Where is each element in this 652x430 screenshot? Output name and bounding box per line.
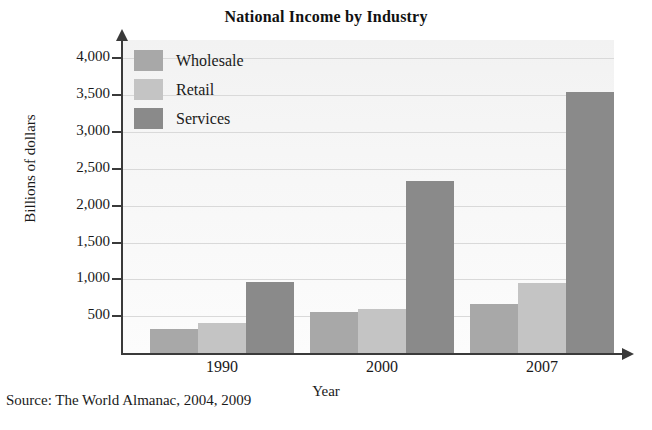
gridline: [122, 206, 614, 207]
legend-swatch-services: [134, 108, 163, 129]
legend-item-wholesale: Wholesale: [134, 46, 324, 75]
y-axis-tick-label: 1,000: [48, 269, 110, 286]
legend-item-services: Services: [134, 104, 324, 133]
y-axis-line: [121, 40, 123, 354]
legend-label: Wholesale: [176, 53, 244, 69]
y-axis-tick-label: 3,000: [48, 122, 110, 139]
chart-figure: National Income by Industry 5001,0001,50…: [0, 0, 652, 430]
y-axis-tick: [112, 242, 122, 244]
legend-label: Services: [176, 111, 230, 127]
y-axis-tick-label: 4,000: [48, 48, 110, 65]
x-axis-category-label: 2000: [322, 358, 442, 376]
bar-services-2000: [406, 181, 454, 353]
bar-services-2007: [566, 92, 614, 353]
y-axis-tick: [112, 57, 122, 59]
y-axis-tick-label: 2,500: [48, 159, 110, 176]
legend: WholesaleRetailServices: [134, 46, 324, 133]
legend-swatch-retail: [134, 79, 163, 100]
bar-retail-2000: [358, 309, 406, 353]
gridline: [122, 169, 614, 170]
bar-retail-2007: [518, 283, 566, 353]
y-axis-tick-label: 500: [48, 306, 110, 323]
legend-label: Retail: [176, 82, 214, 98]
y-axis-tick: [112, 131, 122, 133]
legend-swatch-wholesale: [134, 50, 163, 71]
gridline: [122, 243, 614, 244]
bar-services-1990: [246, 282, 294, 353]
y-axis-tick-label: 2,000: [48, 196, 110, 213]
x-axis-category-label: 1990: [162, 358, 282, 376]
y-axis-tick: [112, 168, 122, 170]
x-axis-category-label: 2007: [482, 358, 602, 376]
bar-wholesale-1990: [150, 329, 198, 353]
source-note: Source: The World Almanac, 2004, 2009: [6, 392, 251, 409]
y-axis-tick: [112, 315, 122, 317]
y-axis-tick: [112, 278, 122, 280]
y-axis-tick: [112, 94, 122, 96]
x-axis-arrow-icon: [622, 348, 634, 360]
bar-wholesale-2000: [310, 312, 358, 353]
y-axis-tick-labels: 5001,0001,5002,0002,5003,0003,5004,000: [42, 0, 110, 430]
y-axis-arrow-icon: [116, 29, 128, 41]
y-axis-title: Billions of dollars: [22, 59, 39, 279]
bar-retail-1990: [198, 323, 246, 353]
x-axis-line: [121, 353, 624, 355]
y-axis-tick-label: 1,500: [48, 233, 110, 250]
bar-wholesale-2007: [470, 304, 518, 353]
gridline: [122, 279, 614, 280]
y-axis-tick-label: 3,500: [48, 85, 110, 102]
legend-item-retail: Retail: [134, 75, 324, 104]
y-axis-tick: [112, 205, 122, 207]
